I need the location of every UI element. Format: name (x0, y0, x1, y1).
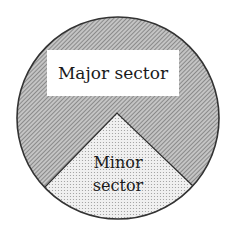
major-sector-label: Major sector (58, 63, 169, 83)
minor-sector-label-line1: Minor (93, 153, 142, 172)
sector-diagram: Major sector Minor sector (0, 0, 235, 228)
minor-sector-label-line2: sector (93, 176, 144, 195)
